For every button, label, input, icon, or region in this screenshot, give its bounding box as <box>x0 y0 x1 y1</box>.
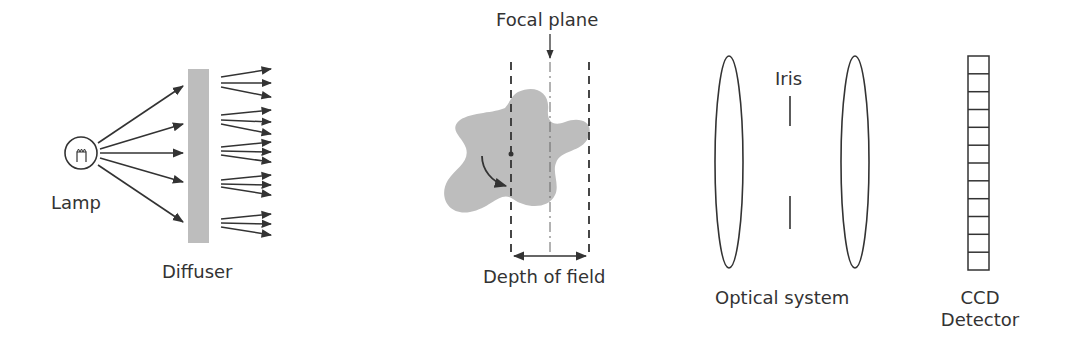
lamp-label: Lamp <box>51 194 101 212</box>
diffuser-label: Diffuser <box>162 263 233 281</box>
optical-system-label: Optical system <box>715 289 849 307</box>
ccd-label-line2: Detector <box>940 309 1020 331</box>
diffused-rays <box>221 69 271 235</box>
ccd-label: CCD Detector <box>940 287 1020 331</box>
depth-of-field-label: Depth of field <box>483 268 605 286</box>
lens-left <box>715 56 743 268</box>
specimen-blob <box>444 89 590 213</box>
iris-label: Iris <box>775 70 802 88</box>
diffuser-plate <box>188 69 209 243</box>
focal-plane-label: Focal plane <box>496 11 598 29</box>
lamp-rays <box>98 86 183 222</box>
ccd-label-line1: CCD <box>940 287 1020 309</box>
lamp-icon <box>65 137 97 169</box>
imaging-setup-diagram <box>0 0 1069 355</box>
ccd-detector <box>968 56 989 270</box>
lens-right <box>841 56 869 268</box>
